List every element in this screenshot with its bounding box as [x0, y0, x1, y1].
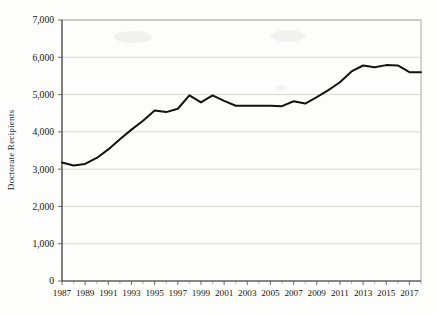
x-tick-label-2017: 2017: [400, 288, 419, 298]
y-tick-label-2000: 2,000: [32, 201, 54, 212]
x-tick-label-1999: 1999: [192, 288, 211, 298]
x-tick-label-2001: 2001: [215, 288, 234, 298]
x-tick-label-1987: 1987: [53, 288, 72, 298]
plot-area-background: [62, 20, 421, 281]
doctorate-recipients-line-chart: 01,0002,0003,0004,0005,0006,0007,000 198…: [0, 0, 436, 314]
x-tick-label-2013: 2013: [354, 288, 373, 298]
y-tick-label-7000: 7,000: [32, 14, 54, 25]
y-tick-label-0: 0: [49, 275, 54, 286]
y-tick-label-4000: 4,000: [32, 126, 54, 137]
x-tick-label-2015: 2015: [377, 288, 396, 298]
x-tick-label-2005: 2005: [261, 288, 280, 298]
y-tick-label-6000: 6,000: [32, 52, 54, 63]
y-tick-label-1000: 1,000: [32, 238, 54, 249]
x-tick-label-1991: 1991: [99, 288, 118, 298]
x-tick-label-2007: 2007: [284, 288, 303, 298]
y-axis-label: Doctorate Recipients: [6, 110, 16, 191]
x-tick-label-2003: 2003: [238, 288, 257, 298]
x-tick-label-1997: 1997: [169, 288, 188, 298]
x-tick-label-1993: 1993: [122, 288, 141, 298]
y-tick-label-5000: 5,000: [32, 89, 54, 100]
chart-container: 01,0002,0003,0004,0005,0006,0007,000 198…: [0, 0, 436, 314]
x-tick-label-2011: 2011: [331, 288, 349, 298]
x-tick-label-2009: 2009: [308, 288, 327, 298]
x-tick-label-1989: 1989: [76, 288, 95, 298]
y-tick-label-3000: 3,000: [32, 164, 54, 175]
x-tick-label-1995: 1995: [145, 288, 164, 298]
